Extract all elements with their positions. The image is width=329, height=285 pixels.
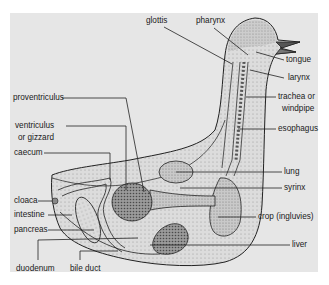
label-larynx: larynx — [288, 73, 310, 83]
label-glottis: glottis — [146, 16, 167, 26]
label-cloaca: cloaca — [14, 196, 38, 206]
label-trachea-line1: trachea or — [278, 92, 315, 102]
label-pancreas: pancreas — [14, 225, 48, 235]
label-proventriculus: proventriculus — [13, 93, 64, 103]
label-pharynx: pharynx — [196, 16, 225, 26]
label-tongue: tongue — [286, 55, 311, 65]
label-esophagus: esophagus — [278, 124, 318, 134]
label-bile-duct: bile duct — [70, 264, 101, 274]
label-trachea-line2: windpipe — [282, 104, 314, 114]
label-liver: liver — [292, 240, 307, 250]
label-ventriculus-line1: ventriculus — [15, 121, 54, 131]
label-caecum: caecum — [14, 148, 43, 158]
label-intestine: intestine — [14, 210, 45, 220]
gizzard-shape — [112, 183, 152, 221]
label-syrinx: syrinx — [284, 183, 305, 193]
label-ventriculus-line2: or gizzard — [18, 133, 54, 143]
label-crop: crop (ingluvies) — [258, 212, 314, 222]
label-lung: lung — [284, 167, 299, 177]
label-duodenum: duodenum — [16, 264, 55, 274]
